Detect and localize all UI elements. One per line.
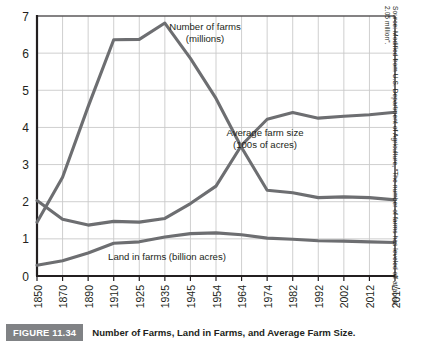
y-axis-tick-label: 5: [22, 84, 29, 98]
annotation-number-of-farms: Number of farms: [169, 21, 241, 32]
x-axis-tick-label: 1992: [313, 285, 325, 309]
x-axis-tick-label: 1935: [159, 285, 171, 309]
chart-plot-area: 0123456718501870189019101925193519451954…: [0, 0, 433, 318]
y-axis-tick-label: 3: [22, 158, 29, 172]
x-axis-tick-label: 1890: [83, 285, 95, 309]
x-axis-tick-label: 1945: [185, 285, 197, 309]
x-axis-tick-label: 1954: [211, 285, 223, 309]
y-axis-tick-label: 4: [22, 121, 29, 135]
line-chart: 0123456718501870189019101925193519451954…: [0, 0, 433, 318]
x-axis-tick-label: 1964: [236, 285, 248, 309]
figure-container: 0123456718501870189019101925193519451954…: [0, 0, 433, 344]
annotation-land-in-farms: Land in farms (billion acres): [108, 251, 226, 262]
x-axis-tick-label: 1870: [57, 285, 69, 309]
x-axis-tick-label: 1974: [262, 285, 274, 309]
figure-caption: FIGURE 11.34 Number of Farms, Land in Fa…: [0, 320, 433, 344]
annotation-average-farm-size: Average farm size: [226, 127, 303, 138]
x-axis-tick-label: 2012: [364, 285, 376, 309]
x-axis-tick-label: 1850: [32, 285, 44, 309]
annotation-number-of-farms: (millions): [186, 33, 224, 44]
x-axis-tick-label: 1925: [134, 285, 146, 309]
figure-number-badge: FIGURE 11.34: [6, 324, 83, 341]
source-note: Source: Modified from U.S. Department of…: [385, 6, 399, 306]
x-axis-tick-label: 2002: [338, 285, 350, 309]
y-axis-tick-label: 1: [22, 232, 29, 246]
x-axis-tick-label: 1910: [108, 285, 120, 309]
x-axis-tick-label: 1982: [287, 285, 299, 309]
figure-caption-text: Number of Farms, Land in Farms, and Aver…: [92, 327, 355, 338]
y-axis-tick-label: 2: [22, 195, 29, 209]
y-axis-tick-label: 6: [22, 47, 29, 61]
y-axis-tick-label: 7: [22, 10, 29, 24]
annotation-average-farm-size: (100s of acres): [233, 139, 297, 150]
y-axis-tick-label: 0: [22, 270, 29, 284]
